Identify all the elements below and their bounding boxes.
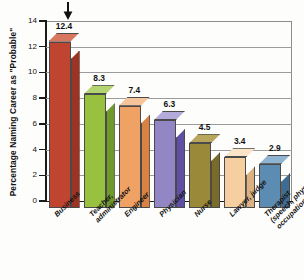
y-tick-mark <box>39 149 45 150</box>
y-tick: 14 <box>0 16 37 26</box>
y-tick-mark <box>39 97 45 98</box>
bar <box>49 42 71 201</box>
y-tick-label: 2 <box>21 170 37 179</box>
y-tick: 0 <box>0 196 37 206</box>
y-tick-mark <box>39 46 45 47</box>
y-tick-mark <box>39 72 45 73</box>
y-tick-label: 4 <box>21 145 37 154</box>
bar-value-label: 7.4 <box>114 85 154 95</box>
bar-side-face <box>211 152 220 208</box>
y-tick-label: 12 <box>21 42 37 51</box>
y-tick: 10 <box>0 67 37 77</box>
bar-chart: Percentage Naming Career as "Probable" 0… <box>0 0 304 280</box>
y-tick-label: 6 <box>21 119 37 128</box>
bar <box>224 157 246 201</box>
bar-value-label: 6.3 <box>149 99 189 109</box>
y-tick: 4 <box>0 145 37 155</box>
bar-value-label: 12.4 <box>44 21 84 31</box>
gridline <box>46 47 292 48</box>
y-tick: 8 <box>0 93 37 103</box>
bar <box>189 143 211 201</box>
bar-front-face <box>49 42 71 208</box>
bar-value-label: 8.3 <box>79 73 119 83</box>
y-tick: 12 <box>0 42 37 52</box>
bar-value-label: 4.5 <box>185 122 225 132</box>
y-tick-mark <box>39 175 45 176</box>
bar <box>84 94 106 201</box>
y-tick: 6 <box>0 119 37 129</box>
bar-side-face <box>71 51 80 208</box>
down-arrow-icon <box>62 2 74 20</box>
bar-front-face <box>154 120 176 208</box>
bar-front-face <box>84 94 106 208</box>
bar-value-label: 3.4 <box>220 136 260 146</box>
bar <box>154 120 176 201</box>
y-tick-label: 0 <box>21 196 37 205</box>
y-tick-label: 10 <box>21 67 37 76</box>
y-tick: 2 <box>0 170 37 180</box>
y-tick-label: 8 <box>21 93 37 102</box>
y-tick-mark <box>39 200 45 201</box>
y-tick-label: 14 <box>21 16 37 25</box>
bar-value-label: 2.9 <box>255 143 295 153</box>
y-tick-mark <box>39 123 45 124</box>
